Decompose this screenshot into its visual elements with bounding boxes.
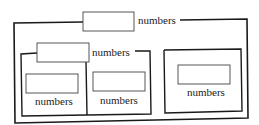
field-2-input-box[interactable] xyxy=(93,72,145,91)
left-group-label: numbers xyxy=(92,46,130,58)
left-group-input-box[interactable] xyxy=(37,43,89,62)
field-2-label: numbers xyxy=(100,94,138,106)
outer-group-label: numbers xyxy=(138,14,176,26)
field-3-label: numbers xyxy=(187,86,225,98)
field-1-input-box[interactable] xyxy=(26,74,78,93)
outer-group-input-box[interactable] xyxy=(83,12,134,31)
diagram-canvas: numbers numbers numbers numbers numbers xyxy=(0,0,259,125)
field-1-label: numbers xyxy=(35,95,73,107)
field-3-input-box[interactable] xyxy=(178,65,230,84)
